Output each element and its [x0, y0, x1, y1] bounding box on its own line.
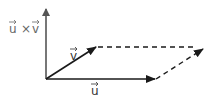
label-cross-product: u × v: [9, 20, 39, 36]
label-cross-u: u: [9, 22, 17, 36]
cross-product-diagram: u × v v u: [0, 0, 217, 97]
label-cross-v: v: [32, 22, 39, 36]
label-cross-times: ×: [21, 22, 31, 36]
label-u-group: u: [91, 82, 99, 97]
label-v-group: v: [70, 47, 77, 63]
parallelogram-right-edge-dashed: [156, 49, 203, 79]
label-u: u: [91, 84, 99, 97]
label-v: v: [70, 49, 77, 63]
